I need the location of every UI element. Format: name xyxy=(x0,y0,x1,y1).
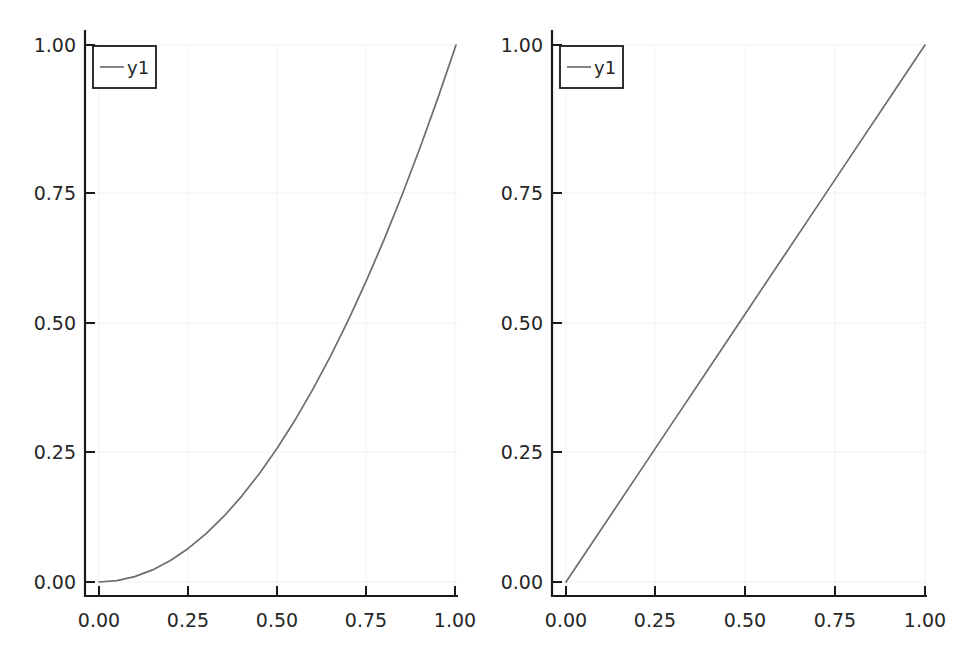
y-ticklabel: 1.00 xyxy=(34,34,76,56)
y-ticklabel: 1.00 xyxy=(501,34,543,56)
y-ticklabel: 0.50 xyxy=(501,312,543,334)
y-ticklabel: 0.25 xyxy=(501,441,543,463)
figure-canvas: 1.00 0.75 0.50 0.25 0.00 0.00 0.25 0.50 … xyxy=(0,0,955,664)
x-ticklabel: 0.75 xyxy=(345,609,387,631)
y-ticklabel: 0.00 xyxy=(34,571,76,593)
x-ticklabels-left: 0.00 0.25 0.50 0.75 1.00 xyxy=(78,609,476,631)
y-tickmarks-left xyxy=(85,45,95,582)
plot-svg-right: 1.00 0.75 0.50 0.25 0.00 0.00 0.25 0.50 … xyxy=(470,0,955,664)
grid-vertical-right xyxy=(566,45,925,596)
x-ticklabel: 0.25 xyxy=(634,609,676,631)
chart-panel-right: 1.00 0.75 0.50 0.25 0.00 0.00 0.25 0.50 … xyxy=(470,0,955,664)
x-ticklabel: 0.75 xyxy=(814,609,856,631)
y-ticklabels-right: 1.00 0.75 0.50 0.25 0.00 xyxy=(501,34,543,593)
x-ticklabel: 0.50 xyxy=(256,609,298,631)
legend-label-y1: y1 xyxy=(594,57,616,78)
legend-right[interactable]: y1 xyxy=(560,46,623,88)
x-ticklabel: 0.25 xyxy=(167,609,209,631)
y-ticklabel: 0.75 xyxy=(501,182,543,204)
legend-left[interactable]: y1 xyxy=(93,46,156,88)
x-tickmarks-right xyxy=(566,586,925,596)
x-ticklabel: 0.00 xyxy=(78,609,120,631)
x-ticklabel: 0.00 xyxy=(545,609,587,631)
x-ticklabel: 0.50 xyxy=(724,609,766,631)
y-ticklabel: 0.25 xyxy=(34,441,76,463)
y-ticklabel: 0.00 xyxy=(501,571,543,593)
y-ticklabel: 0.50 xyxy=(34,312,76,334)
y-ticklabels-left: 1.00 0.75 0.50 0.25 0.00 xyxy=(34,34,76,593)
x-ticklabels-right: 0.00 0.25 0.50 0.75 1.00 xyxy=(545,609,946,631)
x-ticklabel: 1.00 xyxy=(904,609,946,631)
y-ticklabel: 0.75 xyxy=(34,182,76,204)
chart-panel-left: 1.00 0.75 0.50 0.25 0.00 0.00 0.25 0.50 … xyxy=(0,0,478,664)
grid-horizontal-right xyxy=(552,45,926,582)
plot-svg-left: 1.00 0.75 0.50 0.25 0.00 0.00 0.25 0.50 … xyxy=(0,0,478,664)
grid-vertical-left xyxy=(99,45,455,596)
x-tickmarks-left xyxy=(99,586,455,596)
y-tickmarks-right xyxy=(552,45,562,582)
grid-horizontal-left xyxy=(85,45,457,582)
legend-label-y1: y1 xyxy=(127,57,149,78)
